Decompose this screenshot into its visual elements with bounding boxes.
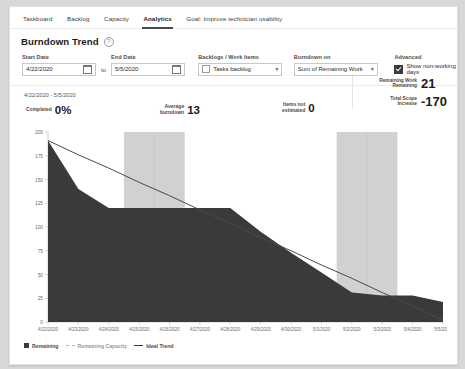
svg-text:175: 175	[35, 153, 43, 158]
legend-swatch-remaining	[24, 343, 29, 348]
start-date-label: Start Date	[22, 54, 96, 60]
backlog-group: Backlogs / Work Items Tasks backlog ▾	[198, 54, 282, 76]
stat-total-scope: Total Scope Increase -170	[355, 94, 447, 109]
burndown-on-label: Burndown on	[294, 54, 378, 60]
chevron-down-icon[interactable]: ▾	[371, 66, 374, 72]
svg-text:25: 25	[38, 296, 44, 301]
burndown-on-value: Sum of Remaining Work	[298, 66, 363, 72]
svg-text:4/27/2020: 4/27/2020	[190, 327, 211, 332]
grid-icon	[202, 65, 210, 73]
stat-total-scope-value: -170	[421, 94, 447, 109]
calendar-icon[interactable]	[83, 65, 92, 74]
tab-bar: Taskboard Backlog Capacity Analytics Goa…	[10, 7, 457, 29]
end-date-group: End Date 5/5/2020	[111, 54, 185, 76]
svg-text:4/23/2020: 4/23/2020	[68, 327, 89, 332]
legend-label-remaining-capacity: Remaining Capacity	[78, 343, 128, 349]
stats-divider	[352, 74, 353, 108]
burndown-on-group: Burndown on Sum of Remaining Work ▾	[294, 54, 378, 76]
svg-text:4/28/2020: 4/28/2020	[220, 327, 241, 332]
svg-text:5/5/2020: 5/5/2020	[434, 327, 447, 332]
show-non-working-days-label: Show non-working days	[406, 63, 457, 75]
backlog-value: Tasks backlog	[213, 66, 251, 72]
chevron-down-icon[interactable]: ▾	[275, 66, 278, 72]
page-title: Burndown Trend	[21, 36, 99, 47]
svg-text:4/22/2020: 4/22/2020	[38, 327, 59, 332]
tab-taskboard[interactable]: Taskboard	[18, 8, 57, 29]
svg-text:5/4/2020: 5/4/2020	[404, 327, 422, 332]
stat-items-not-estimated-value: 0	[308, 102, 314, 114]
legend-swatch-remaining-capacity	[66, 345, 75, 346]
page-title-row: Burndown Trend ?	[10, 29, 457, 52]
stat-remaining-work-label: Remaining Work Remaining	[379, 78, 417, 89]
stat-remaining-work-value: 21	[421, 76, 447, 91]
svg-text:4/24/2020: 4/24/2020	[99, 327, 120, 332]
burndown-trend-page: Taskboard Backlog Capacity Analytics Goa…	[0, 0, 465, 369]
start-date-input[interactable]: 4/22/2020	[22, 63, 96, 76]
advanced-label: Advanced	[394, 54, 457, 60]
date-range-to-label: to	[101, 67, 106, 73]
svg-text:50: 50	[38, 272, 44, 277]
checkbox-checked-icon[interactable]	[394, 65, 403, 74]
stat-average-burndown: Average burndown 13	[160, 104, 200, 116]
right-stats: Remaining Work Remaining 21 Total Scope …	[355, 76, 447, 112]
tab-goal[interactable]: Goal: Improve technician usability	[181, 8, 287, 29]
svg-text:5/3/2020: 5/3/2020	[373, 327, 391, 332]
end-date-input[interactable]: 5/5/2020	[111, 63, 185, 76]
backlog-select[interactable]: Tasks backlog ▾	[198, 63, 282, 76]
burndown-on-select[interactable]: Sum of Remaining Work ▾	[294, 63, 378, 76]
svg-text:5/1/2020: 5/1/2020	[313, 327, 331, 332]
svg-text:150: 150	[35, 177, 43, 182]
svg-text:4/29/2020: 4/29/2020	[251, 327, 272, 332]
svg-text:200: 200	[35, 130, 43, 135]
legend-item-remaining-capacity[interactable]: Remaining Capacity	[66, 343, 128, 349]
svg-text:100: 100	[35, 225, 43, 230]
legend-item-remaining[interactable]: Remaining	[24, 343, 59, 349]
backlog-label: Backlogs / Work Items	[198, 54, 282, 60]
stat-completed-value: 0%	[55, 104, 72, 116]
legend-swatch-ideal-trend	[134, 345, 143, 346]
tab-capacity[interactable]: Capacity	[99, 8, 134, 29]
summary-stats: Completed 0% Average burndown 13 Items n…	[10, 98, 457, 124]
svg-text:4/25/2020: 4/25/2020	[129, 327, 150, 332]
show-non-working-days-checkbox[interactable]: Show non-working days	[394, 63, 457, 76]
stat-completed: Completed 0%	[26, 104, 71, 116]
legend-label-remaining: Remaining	[32, 343, 59, 349]
stat-average-burndown-label: Average burndown	[160, 104, 184, 115]
svg-text:75: 75	[38, 248, 44, 253]
legend-item-ideal-trend[interactable]: Ideal Trend	[134, 343, 173, 349]
stat-completed-label: Completed	[26, 107, 52, 113]
chart-legend: Remaining Remaining Capacity Ideal Trend	[10, 340, 457, 349]
burndown-chart: 02550751001251501752004/22/20204/23/2020…	[20, 126, 447, 340]
tab-analytics[interactable]: Analytics	[138, 8, 176, 29]
tab-backlog[interactable]: Backlog	[62, 8, 95, 29]
svg-text:4/26/2020: 4/26/2020	[160, 327, 181, 332]
question-circle-icon[interactable]: ?	[104, 37, 114, 47]
svg-text:0: 0	[40, 320, 43, 325]
calendar-icon[interactable]	[172, 65, 181, 74]
report-card: Taskboard Backlog Capacity Analytics Goa…	[9, 6, 458, 365]
stat-items-not-estimated-label: Items not estimated	[282, 102, 305, 113]
start-date-group: Start Date 4/22/2020	[22, 54, 96, 76]
stat-items-not-estimated: Items not estimated 0	[282, 102, 315, 114]
svg-text:125: 125	[35, 201, 43, 206]
end-date-value: 5/5/2020	[115, 66, 138, 72]
svg-text:4/30/2020: 4/30/2020	[281, 327, 302, 332]
svg-text:5/2/2020: 5/2/2020	[343, 327, 361, 332]
legend-label-ideal-trend: Ideal Trend	[146, 343, 173, 349]
advanced-group: Advanced Show non-working days	[394, 54, 457, 76]
start-date-value: 4/22/2020	[26, 66, 53, 72]
stat-remaining-work: Remaining Work Remaining 21	[355, 76, 447, 91]
end-date-label: End Date	[111, 54, 185, 60]
stat-total-scope-label: Total Scope Increase	[390, 96, 417, 107]
burndown-chart-svg: 02550751001251501752004/22/20204/23/2020…	[20, 126, 447, 338]
stat-average-burndown-value: 13	[187, 104, 200, 116]
